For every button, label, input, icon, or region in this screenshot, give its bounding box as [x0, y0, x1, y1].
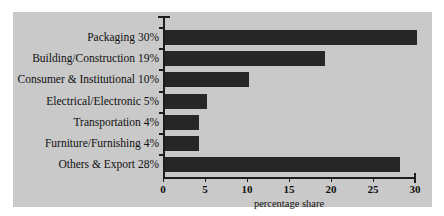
y-axis-cap [158, 16, 170, 18]
x-axis-tick [331, 177, 332, 182]
x-axis-title: percentage share [254, 198, 324, 209]
bar [165, 94, 207, 109]
x-axis-tick [247, 177, 248, 182]
y-axis-tick [159, 154, 164, 156]
x-axis-tick [205, 177, 206, 182]
chart-screenshot: 051015202530 Packaging 30%Building/Const… [0, 0, 444, 216]
category-label: Furniture/Furnishing 4% [45, 137, 159, 149]
x-axis-tick [289, 177, 290, 182]
category-label: Consumer & Institutional 10% [17, 73, 159, 85]
x-axis-tick [415, 177, 416, 182]
x-axis-tick-label: 25 [368, 183, 379, 195]
x-axis-tick-label: 10 [242, 183, 253, 195]
bar [165, 157, 400, 172]
y-axis-tick [159, 91, 164, 93]
x-axis-tick [373, 177, 374, 182]
x-axis-tick [163, 177, 164, 182]
y-axis-tick [159, 133, 164, 135]
y-axis-tick [159, 48, 164, 50]
x-axis-tick-label: 30 [410, 183, 421, 195]
category-label: Packaging 30% [87, 31, 159, 43]
y-axis-tick [159, 112, 164, 114]
bar [165, 30, 417, 45]
category-label: Transportation 4% [73, 116, 159, 128]
bar [165, 72, 249, 87]
x-axis-tick-label: 20 [326, 183, 337, 195]
y-axis-tick [159, 27, 164, 29]
bar [165, 51, 325, 66]
chart-panel: 051015202530 Packaging 30%Building/Const… [13, 12, 432, 207]
x-axis-tick-label: 15 [284, 183, 295, 195]
bar [165, 136, 199, 151]
x-axis-tick-label: 5 [202, 183, 208, 195]
x-axis-tick-label: 0 [160, 183, 166, 195]
category-label: Others & Export 28% [58, 158, 159, 170]
category-label: Building/Construction 19% [32, 52, 159, 64]
y-axis-tick [159, 69, 164, 71]
bar [165, 115, 199, 130]
category-label: Electrical/Electronic 5% [46, 95, 159, 107]
